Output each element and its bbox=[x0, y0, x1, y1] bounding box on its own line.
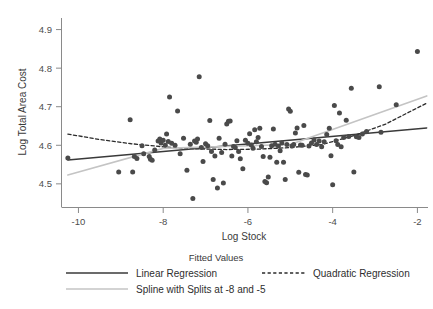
data-point bbox=[236, 149, 241, 154]
data-point bbox=[247, 131, 252, 136]
data-point bbox=[266, 174, 271, 179]
data-point bbox=[130, 169, 135, 174]
data-point bbox=[300, 143, 305, 148]
y-tick-label: 4.8 bbox=[39, 63, 52, 74]
data-point bbox=[394, 102, 399, 107]
data-point bbox=[295, 125, 300, 130]
data-point bbox=[322, 139, 327, 144]
data-point bbox=[164, 132, 169, 137]
data-point bbox=[134, 156, 139, 161]
fitted-lines-layer bbox=[68, 96, 427, 175]
data-point bbox=[211, 177, 216, 182]
data-point bbox=[261, 154, 266, 159]
x-tick-label: -8 bbox=[159, 216, 167, 227]
data-point bbox=[328, 153, 333, 158]
data-point bbox=[257, 126, 262, 131]
data-point bbox=[195, 137, 200, 142]
data-point bbox=[415, 49, 420, 54]
data-point bbox=[259, 144, 264, 149]
chart-figure: 4.54.64.74.84.9 -10-8-6-4-2 Log Stock Lo… bbox=[0, 0, 433, 309]
data-point bbox=[291, 142, 296, 147]
data-point bbox=[140, 143, 145, 148]
data-point bbox=[278, 148, 283, 153]
data-point bbox=[317, 139, 322, 144]
legend-label: Quadratic Regression bbox=[313, 268, 410, 279]
data-point bbox=[364, 129, 369, 134]
data-point bbox=[65, 156, 70, 161]
data-point bbox=[281, 160, 286, 165]
data-point bbox=[351, 169, 356, 174]
data-point bbox=[188, 142, 193, 147]
x-axis-title: Log Stock bbox=[222, 231, 267, 242]
y-axis-title: Log Total Area Cost bbox=[17, 68, 28, 155]
data-point bbox=[150, 158, 155, 163]
x-tick-label: -2 bbox=[413, 216, 421, 227]
legend-label: Linear Regression bbox=[136, 268, 217, 279]
data-point bbox=[178, 151, 183, 156]
data-point bbox=[288, 109, 293, 114]
data-point bbox=[221, 181, 226, 186]
data-point bbox=[197, 74, 202, 79]
x-axis-ticks: -10-8-6-4-2 bbox=[72, 208, 422, 228]
data-point bbox=[116, 169, 121, 174]
data-point bbox=[240, 166, 245, 171]
data-points-layer bbox=[65, 49, 420, 201]
data-point bbox=[173, 143, 178, 148]
legend: Linear RegressionQuadratic RegressionSpl… bbox=[66, 268, 410, 295]
data-point bbox=[251, 146, 256, 151]
data-point bbox=[212, 154, 217, 159]
data-point bbox=[264, 180, 269, 185]
data-point bbox=[330, 182, 335, 187]
data-point bbox=[327, 126, 332, 131]
data-point bbox=[256, 135, 261, 140]
data-point bbox=[360, 132, 365, 137]
data-point bbox=[319, 144, 324, 149]
scatter-plot-svg: 4.54.64.74.84.9 -10-8-6-4-2 Log Stock Lo… bbox=[0, 0, 433, 309]
data-point bbox=[349, 86, 354, 91]
data-point bbox=[128, 117, 133, 122]
data-point bbox=[312, 137, 317, 142]
x-tick-label: -6 bbox=[244, 216, 252, 227]
data-point bbox=[267, 155, 272, 160]
data-point bbox=[181, 136, 186, 141]
data-point bbox=[229, 154, 234, 159]
y-tick-label: 4.9 bbox=[39, 24, 52, 35]
data-point bbox=[161, 138, 166, 143]
data-point bbox=[279, 140, 284, 145]
data-point bbox=[274, 160, 279, 165]
legend-title: Fitted Values bbox=[189, 252, 244, 263]
data-point bbox=[296, 170, 301, 175]
data-point bbox=[152, 147, 157, 152]
data-point bbox=[219, 150, 224, 155]
data-point bbox=[184, 168, 189, 173]
data-point bbox=[337, 110, 342, 115]
data-point bbox=[283, 177, 288, 182]
data-point bbox=[252, 127, 257, 132]
data-point bbox=[284, 142, 289, 147]
x-tick-label: -4 bbox=[328, 216, 336, 227]
fitted-line bbox=[68, 96, 427, 175]
data-point bbox=[201, 159, 206, 164]
y-axis-ticks: 4.54.64.74.84.9 bbox=[39, 24, 62, 189]
x-tick-label: -10 bbox=[72, 216, 86, 227]
data-point bbox=[332, 103, 337, 108]
data-point bbox=[271, 127, 276, 132]
data-point bbox=[215, 186, 220, 191]
data-point bbox=[217, 136, 222, 141]
data-point bbox=[305, 172, 310, 177]
data-point bbox=[346, 134, 351, 139]
data-point bbox=[228, 118, 233, 123]
data-point bbox=[175, 108, 180, 113]
data-point bbox=[238, 156, 243, 161]
data-point bbox=[167, 95, 172, 100]
y-tick-label: 4.5 bbox=[39, 178, 52, 189]
data-point bbox=[209, 149, 214, 154]
data-point bbox=[339, 144, 344, 149]
data-point bbox=[233, 145, 238, 150]
legend-label: Spline with Splits at -8 and -5 bbox=[136, 284, 266, 295]
data-point bbox=[190, 196, 195, 201]
plot-axes bbox=[62, 18, 429, 208]
data-point bbox=[301, 123, 306, 128]
data-point bbox=[205, 143, 210, 148]
data-point bbox=[341, 135, 346, 140]
